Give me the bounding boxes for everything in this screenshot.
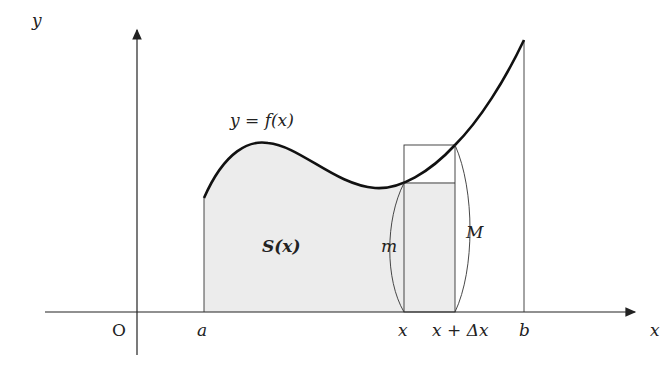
shaded-area (204, 143, 455, 312)
tick-x-plus-dx: x + Δx (432, 320, 489, 340)
label-m: m (381, 236, 397, 256)
area-label: S(x) (262, 236, 301, 256)
tick-x: x (398, 320, 408, 340)
tick-a: a (197, 320, 207, 340)
tick-b: b (519, 320, 530, 340)
origin-label: O (112, 320, 126, 340)
y-axis-label: y (32, 10, 42, 30)
integral-diagram: y x O y = f(x) S(x) a x x + Δx b m M (0, 0, 669, 379)
x-axis-label: x (650, 320, 660, 340)
diagram-canvas (0, 0, 669, 379)
curve-label: y = f(x) (230, 110, 294, 130)
label-M: M (466, 222, 483, 242)
